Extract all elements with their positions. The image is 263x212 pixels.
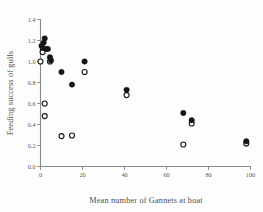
y-tick-label: 0.0 bbox=[28, 163, 36, 170]
data-point-open bbox=[70, 133, 75, 138]
data-point-filled bbox=[45, 46, 50, 51]
x-tick-label: 0 bbox=[39, 171, 42, 178]
y-tick-label: 0.8 bbox=[28, 79, 36, 86]
y-axis-ticks: 0.00.20.40.60.81.01.21.4 bbox=[28, 16, 41, 170]
data-point-open bbox=[82, 70, 87, 75]
y-tick-label: 0.6 bbox=[28, 100, 36, 107]
y-tick-label: 1.2 bbox=[28, 37, 36, 44]
x-tick-label: 100 bbox=[246, 171, 255, 178]
x-axis-title: Mean number of Gannets at boat bbox=[89, 196, 203, 205]
data-point-filled bbox=[82, 59, 87, 64]
data-point-filled bbox=[124, 87, 129, 92]
y-tick-label: 1.0 bbox=[28, 58, 36, 65]
data-point-open bbox=[42, 101, 47, 106]
y-tick-label: 1.4 bbox=[28, 16, 36, 23]
x-tick-label: 60 bbox=[163, 171, 169, 178]
data-point-filled bbox=[42, 36, 47, 41]
series-filled-circles bbox=[39, 36, 249, 144]
x-tick-label: 40 bbox=[121, 171, 127, 178]
y-tick-label: 0.2 bbox=[28, 142, 36, 149]
x-tick-label: 20 bbox=[79, 171, 85, 178]
axis-group bbox=[41, 20, 251, 167]
x-tick-label: 80 bbox=[205, 171, 211, 178]
data-point-open bbox=[42, 114, 47, 119]
y-tick-label: 0.4 bbox=[28, 121, 36, 128]
data-point-filled bbox=[244, 139, 249, 144]
data-point-filled bbox=[69, 82, 74, 87]
data-point-open bbox=[38, 59, 43, 64]
series-open-circles bbox=[38, 50, 249, 147]
data-point-filled bbox=[181, 110, 186, 115]
scatter-chart-figure: 0.00.20.40.60.81.01.21.4 020406080100 Me… bbox=[0, 0, 263, 212]
x-axis-ticks: 020406080100 bbox=[39, 167, 255, 179]
data-point-filled bbox=[189, 118, 194, 123]
data-point-open bbox=[124, 93, 129, 98]
y-axis-title: Feeding success of gulls bbox=[6, 51, 15, 135]
data-point-filled bbox=[48, 58, 53, 63]
data-point-open bbox=[181, 142, 186, 147]
data-point-filled bbox=[59, 69, 64, 74]
data-point-open bbox=[59, 134, 64, 139]
plot-canvas: 0.00.20.40.60.81.01.21.4 020406080100 Me… bbox=[0, 0, 263, 212]
